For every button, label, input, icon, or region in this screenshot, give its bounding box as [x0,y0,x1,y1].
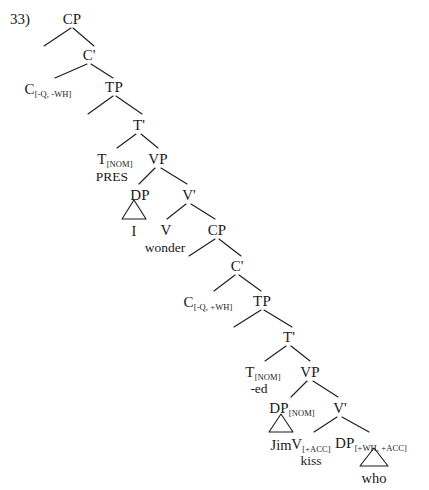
example-number: 33) [10,12,30,27]
tree-node-tp1: TP [105,80,123,95]
tree-node-t2: T[NOM] [245,365,280,380]
branch-vbar2-v [314,417,337,432]
branch-vp2-vbar [313,381,338,397]
node-label: DP [130,187,150,203]
node-label: TP [253,293,271,309]
tree-morpheme-morph-kiss: kiss [300,454,321,468]
tree-node-vbar2: V' [333,401,347,416]
tree-node-c1: C[-Q, -WH] [25,82,72,97]
tree-morpheme-morph-ed: -ed [250,382,267,396]
branch-vbar2-dp [342,417,369,432]
node-label: V [160,222,171,238]
branch-cp1-spec [44,28,71,46]
tree-node-c2: C[-Q, +WH] [184,295,233,310]
tree-morpheme-morph-wonder: wonder [145,241,186,255]
branch-tbar2-t [265,346,286,361]
tree-node-cp1: CP [63,12,82,27]
branch-tbar1-vp [141,134,158,148]
node-label: DP [269,400,289,416]
branch-vp1-dp [139,168,155,184]
node-label: V' [333,400,347,416]
tree-node-v2: V[+ACC] [291,437,331,452]
branch-tp1-tbar [116,96,142,114]
tree-node-tbar2: T' [283,330,295,345]
tree-node-dp3: DP[+WH, +ACC] [335,436,407,451]
tree-node-tp2: TP [253,294,271,309]
tree-node-dp1: DP [130,188,150,203]
tree-branch-lines [0,0,429,490]
tree-leaf-leaf-who: who [362,471,387,486]
branch-cp2-spec [189,239,215,256]
node-feature-subscript: [NOM] [107,159,133,169]
branch-tbar2-vp [291,346,310,361]
tree-node-cbar2: C' [231,259,244,274]
node-label: C' [83,47,96,63]
syntax-tree-figure: 33) CPC'C[-Q, -WH]TPT'T[NOM]VPDPV'VCPC'C… [0,0,429,490]
node-label: T' [283,329,295,345]
branch-cp2-cbar [219,239,241,256]
branch-cbar1-c [55,64,87,78]
branch-tp2-tbar [264,310,292,327]
tree-node-tbar1: T' [133,118,145,133]
tree-leaf-leaf-jim: Jim [271,438,292,453]
node-label: C' [231,258,244,274]
branch-tp2-spec [234,310,261,327]
tree-node-vbar1: V' [182,188,196,203]
tree-node-vp2: VP [300,365,320,380]
node-label: CP [208,222,227,238]
node-label: TP [105,79,123,95]
branch-vp2-dp [291,381,307,397]
node-label: VP [300,364,320,380]
node-label: C [25,81,35,97]
node-label: VP [148,151,168,167]
node-label: C [184,294,194,310]
branch-vbar1-cp [191,204,215,219]
tree-morpheme-morph-pres: PRES [96,170,128,184]
node-feature-subscript: [NOM] [289,408,315,418]
node-label: DP [335,435,355,451]
node-feature-subscript: [-Q, +WH] [194,302,233,312]
tree-node-vp1: VP [148,152,168,167]
tree-node-dp2: DP[NOM] [269,401,315,416]
branch-tp1-spec [88,96,113,114]
tree-node-t1: T[NOM] [97,152,132,167]
branch-vp1-vbar [161,168,187,184]
branch-tbar1-t [117,134,136,148]
tree-node-cbar1: C' [83,48,96,63]
branch-vbar1-v [167,204,186,219]
node-label: T [97,151,106,167]
branch-cp1-cbar [73,28,94,46]
node-label: T [245,364,254,380]
tree-leaf-leaf-i: I [132,224,137,239]
node-feature-subscript: [-Q, -WH] [35,89,72,99]
branch-cbar2-c [214,275,235,291]
branch-cbar1-tp [91,64,113,78]
node-label: V [291,436,302,452]
node-feature-subscript: [+WH, +ACC] [355,443,407,453]
node-label: CP [63,11,82,27]
node-label: T' [133,117,145,133]
tree-node-v1: V [160,223,171,238]
node-label: V' [182,187,196,203]
branch-cbar2-tp [239,275,261,291]
tree-node-cp2: CP [208,223,227,238]
